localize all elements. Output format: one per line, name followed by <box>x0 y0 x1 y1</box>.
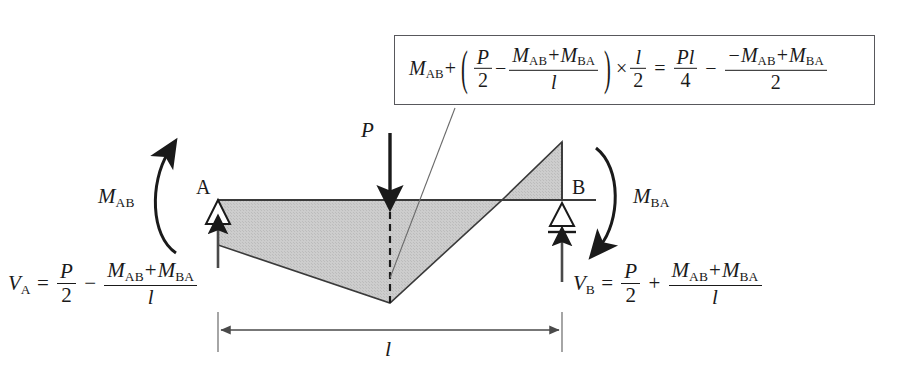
label-moment-ba: MBA <box>633 186 670 209</box>
label-support-a: A <box>196 176 210 199</box>
support-b-roller <box>548 203 576 232</box>
structural-beam-moment-figure: MAB+(P2−MAB+MBAl)×l2 = Pl4 − −MAB+MBA2 A… <box>0 0 905 382</box>
equation-reaction-vb: VB = P2 + MAB+MBAl <box>573 262 764 309</box>
midspan-moment-equation-box: MAB+(P2−MAB+MBAl)×l2 = Pl4 − −MAB+MBA2 <box>394 35 875 105</box>
label-span-l: l <box>385 338 391 360</box>
equation-reaction-va: VA = P2 − MAB+MBAl <box>8 262 199 309</box>
moment-arc-ba <box>596 148 615 246</box>
label-moment-ab: MAB <box>98 186 135 209</box>
label-load-p: P <box>361 118 374 143</box>
negative-moment-region <box>218 200 502 303</box>
midspan-moment-equation: MAB+(P2−MAB+MBAl)×l2 = Pl4 − −MAB+MBA2 <box>409 47 829 93</box>
label-support-b: B <box>572 176 585 199</box>
positive-moment-region <box>502 142 562 200</box>
moment-arc-ab <box>155 153 176 253</box>
